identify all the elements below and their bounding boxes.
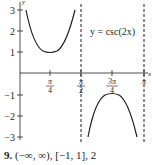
answer-caption: 9. (−∞, ∞), [−1, 1], 2	[4, 149, 96, 161]
x-tick-labels: π 4 π 2 3π 4 π	[46, 77, 147, 95]
y-tick-labels: 3 2 1 −1 −2 −3	[4, 5, 15, 143]
svg-text:3π: 3π	[107, 77, 117, 86]
svg-text:1: 1	[10, 47, 15, 58]
equation-label: y = csc(2x)	[90, 26, 135, 38]
svg-text:−1: −1	[4, 90, 15, 101]
answer-text: (−∞, ∞), [−1, 1], 2	[15, 149, 96, 161]
svg-text:−2: −2	[4, 111, 15, 122]
x-axis-label: x	[147, 70, 152, 78]
y-axis-label: y	[21, 0, 26, 6]
csc-branch-lower	[88, 94, 137, 138]
svg-text:3: 3	[10, 5, 15, 16]
exercise-number: 9.	[4, 149, 12, 161]
svg-text:4: 4	[48, 86, 52, 95]
svg-text:−3: −3	[4, 132, 15, 143]
csc-chart: y x 3 2 1 −1 −2 −3 π 4 π 2 3π 4 π	[0, 0, 152, 145]
csc-branch-upper	[26, 10, 75, 53]
svg-text:2: 2	[10, 26, 15, 37]
svg-text:π: π	[48, 77, 53, 86]
